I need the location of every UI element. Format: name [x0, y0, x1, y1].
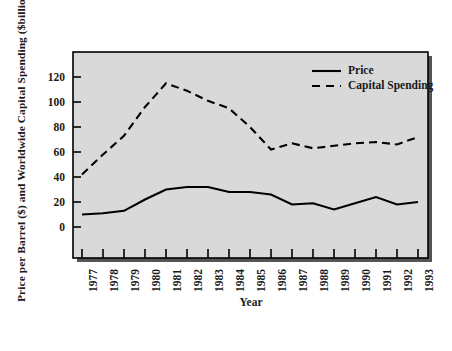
y-tick-label-100: 100: [31, 96, 65, 108]
y-tick-label-80: 80: [31, 121, 65, 133]
x-tick-label-1989: 1989: [339, 269, 351, 292]
x-tick-label-1987: 1987: [297, 269, 309, 292]
x-tick-label-1977: 1977: [87, 269, 99, 292]
legend-label-capital-spending: Capital Spending: [348, 79, 433, 91]
y-tick-label-120: 120: [31, 71, 65, 83]
x-tick-label-1981: 1981: [171, 269, 183, 292]
x-tick-label-1990: 1990: [360, 269, 372, 292]
x-tick-label-1988: 1988: [318, 269, 330, 292]
legend-label-price: Price: [348, 64, 374, 76]
y-tick-label-60: 60: [31, 146, 65, 158]
y-tick-label-40: 40: [31, 171, 65, 183]
x-tick-label-1982: 1982: [192, 269, 204, 292]
x-tick-label-1986: 1986: [276, 269, 288, 292]
x-tick-label-1993: 1993: [423, 269, 435, 292]
y-tick-label-20: 20: [31, 196, 65, 208]
x-tick-label-1980: 1980: [150, 269, 162, 292]
x-tick-label-1984: 1984: [234, 269, 246, 292]
x-axis-title: Year: [73, 296, 429, 308]
x-tick-label-1985: 1985: [255, 269, 267, 292]
x-tick-label-1978: 1978: [108, 269, 120, 292]
y-tick-label-0: 0: [31, 221, 65, 233]
x-tick-label-1983: 1983: [213, 269, 225, 292]
x-tick-label-1979: 1979: [129, 269, 141, 292]
x-tick-label-1991: 1991: [381, 269, 393, 292]
chart-figure: Price per Barrel ($) and Worldwide Capit…: [0, 0, 452, 351]
x-tick-label-1992: 1992: [402, 269, 414, 292]
